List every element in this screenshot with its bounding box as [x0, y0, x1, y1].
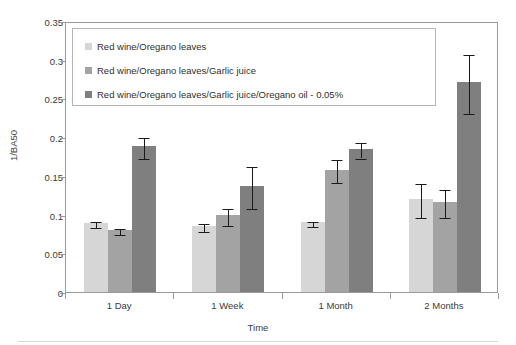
error-bar-cap-lower	[139, 159, 150, 160]
legend-item: Red wine/Oregano leaves/Garlic juice	[85, 66, 256, 76]
bar	[301, 222, 325, 292]
error-bar-cap-lower	[91, 228, 102, 229]
y-tick-label: 0.35	[0, 17, 63, 28]
error-bar-cap-lower	[247, 209, 258, 210]
error-bar	[421, 184, 422, 218]
error-bar-cap-upper	[139, 138, 150, 139]
error-bar-cap-upper	[91, 222, 102, 223]
y-tick-label: 0.1	[0, 210, 63, 221]
bar	[84, 223, 108, 292]
y-tick-label: 0	[0, 288, 63, 299]
error-bar-cap-lower	[355, 159, 366, 160]
error-bar-cap-lower	[331, 183, 342, 184]
x-tick-mark	[498, 293, 499, 299]
x-tick-label: 1 Day	[107, 300, 132, 311]
error-bar-cap-lower	[439, 218, 450, 219]
legend-label: Red wine/Oregano leaves/Garlic juice/Ore…	[97, 90, 343, 100]
error-bar	[252, 167, 253, 209]
x-tick-mark	[173, 293, 174, 299]
bar	[192, 226, 216, 292]
legend: Red wine/Oregano leavesRed wine/Oregano …	[72, 28, 436, 106]
x-tick-mark	[282, 293, 283, 299]
error-bar	[337, 160, 338, 183]
y-tick-label: 0.3	[0, 55, 63, 66]
error-bar-cap-upper	[463, 55, 474, 56]
error-bar	[228, 209, 229, 226]
x-tick-label: 1 Month	[318, 300, 352, 311]
bar	[325, 170, 349, 292]
legend-label: Red wine/Oregano leaves/Garlic juice	[97, 66, 256, 76]
error-bar-cap-lower	[307, 227, 318, 228]
legend-swatch	[85, 43, 92, 50]
x-tick-mark	[65, 293, 66, 299]
x-tick-mark	[390, 293, 391, 299]
y-tick-label: 0.2	[0, 133, 63, 144]
legend-item: Red wine/Oregano leaves	[85, 42, 206, 52]
error-bar-cap-lower	[199, 232, 210, 233]
error-bar-cap-upper	[307, 222, 318, 223]
legend-swatch	[85, 91, 92, 98]
x-tick-label: 1 Week	[211, 300, 243, 311]
bottom-edge-artifact	[18, 341, 498, 342]
bar	[132, 146, 156, 292]
error-bar-cap-upper	[439, 190, 450, 191]
error-bar	[144, 138, 145, 160]
error-bar-cap-upper	[355, 143, 366, 144]
error-bar-cap-upper	[223, 209, 234, 210]
error-bar-cap-lower	[115, 235, 126, 236]
legend-item: Red wine/Oregano leaves/Garlic juice/Ore…	[85, 90, 343, 100]
error-bar-cap-upper	[115, 229, 126, 230]
error-bar	[445, 190, 446, 218]
y-tick-label: 0.15	[0, 171, 63, 182]
error-bar-cap-upper	[331, 160, 342, 161]
bar	[349, 149, 373, 292]
error-bar-cap-upper	[415, 184, 426, 185]
y-tick-label: 0.25	[0, 94, 63, 105]
error-bar	[204, 224, 205, 232]
bar-chart: 1/BA50 00.050.10.150.20.250.30.35 1 Day1…	[0, 0, 516, 345]
legend-label: Red wine/Oregano leaves	[97, 42, 206, 52]
error-bar-cap-lower	[223, 226, 234, 227]
error-bar	[361, 143, 362, 158]
x-tick-label: 2 Months	[424, 300, 463, 311]
error-bar-cap-upper	[247, 167, 258, 168]
error-bar-cap-lower	[415, 218, 426, 219]
y-tick-label: 0.05	[0, 249, 63, 260]
error-bar-cap-upper	[199, 224, 210, 225]
error-bar	[469, 55, 470, 114]
error-bar-cap-lower	[463, 114, 474, 115]
x-axis-title: Time	[0, 322, 516, 333]
legend-swatch	[85, 67, 92, 74]
bar	[108, 230, 132, 292]
